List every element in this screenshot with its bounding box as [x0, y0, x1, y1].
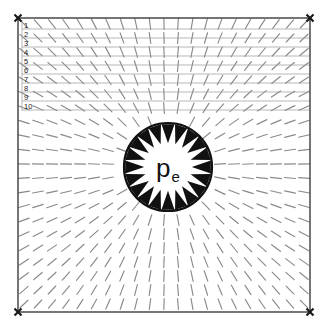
gridline-label: 6	[24, 66, 28, 75]
gridline-label: 5	[24, 57, 28, 66]
gridline-label: 1	[24, 21, 28, 30]
figure-root: 12345678910 pe pe Radially converging ve…	[0, 0, 332, 332]
source-region-label-subscript: e	[171, 168, 179, 185]
field-vector	[164, 75, 165, 86]
field-vector	[164, 243, 165, 254]
field-vector	[178, 299, 179, 310]
gridline-label: 7	[24, 75, 28, 84]
gridline-label: 10	[24, 102, 32, 111]
field-vector	[164, 89, 165, 100]
gridline-label: 9	[24, 93, 28, 102]
gridline-label: 3	[24, 39, 28, 48]
gridline-label: 8	[24, 84, 28, 93]
field-vector	[164, 103, 165, 114]
field-vector	[229, 164, 240, 165]
gridline-label: 4	[24, 48, 28, 57]
field-vector	[164, 215, 165, 226]
field-vector	[178, 19, 179, 30]
field-vector	[103, 164, 114, 165]
field-vector	[164, 229, 165, 240]
field-vector	[215, 164, 226, 165]
gridline-label: 2	[24, 30, 28, 39]
vector-field-diagram: 12345678910 pe	[0, 0, 332, 332]
